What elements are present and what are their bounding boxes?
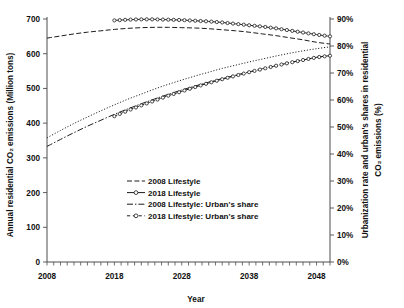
left-tick-label: 500 [26, 84, 40, 93]
left-tick-label: 600 [26, 50, 40, 59]
series-marker [242, 72, 245, 75]
series-marker [204, 82, 207, 85]
series-marker [275, 27, 278, 30]
x-tick-label: 2038 [240, 272, 259, 281]
series-marker [328, 35, 331, 38]
right-tick-label: 80% [337, 42, 354, 51]
series-marker [118, 19, 121, 22]
series-marker [221, 78, 224, 81]
series-marker [210, 20, 213, 23]
series-marker [151, 18, 154, 21]
series-marker [134, 106, 137, 109]
series-marker [231, 22, 234, 25]
y-axis-title: Annual residential CO₂ emissions (Millio… [6, 52, 15, 237]
legend-marker [134, 214, 138, 218]
series-marker [140, 104, 143, 107]
series-marker [258, 68, 261, 71]
series-marker [323, 55, 326, 58]
series-marker [307, 57, 310, 60]
x-tick-label: 2008 [38, 272, 57, 281]
right-tick-label: 60% [337, 96, 354, 105]
series-marker [221, 21, 224, 24]
series-marker [318, 55, 321, 58]
right-tick-label: 90% [337, 15, 354, 24]
x-tick-label: 2048 [307, 272, 326, 281]
series-marker [124, 18, 127, 21]
legend-label: 2008 Lifestyle [148, 177, 201, 186]
right-tick-label: 30% [337, 177, 354, 186]
series-marker [248, 24, 251, 27]
series-marker [248, 71, 251, 74]
series-marker [145, 18, 148, 21]
right-tick-label: 0% [337, 258, 350, 267]
legend-label: 2008 Lifestyle: Urban's share [148, 200, 259, 209]
series-marker [199, 84, 202, 87]
series-marker [226, 21, 229, 24]
series-marker [285, 28, 288, 31]
series-marker [183, 19, 186, 22]
series-marker [161, 18, 164, 21]
series-marker [237, 73, 240, 76]
series-marker [172, 92, 175, 95]
series-marker [296, 30, 299, 33]
left-tick-label: 200 [26, 189, 40, 198]
series-marker [188, 19, 191, 22]
series-marker [291, 61, 294, 64]
chart-container: 0100200300400500600700 0%10%20%30%40%50%… [0, 0, 404, 308]
series-marker [269, 65, 272, 68]
series-marker [307, 32, 310, 35]
right-tick-label: 70% [337, 69, 354, 78]
legend-marker [134, 191, 138, 195]
series-marker [113, 19, 116, 22]
series-marker [258, 25, 261, 28]
series-marker [312, 33, 315, 36]
x-tick-label: 2028 [173, 272, 192, 281]
series-marker [242, 23, 245, 26]
series-marker [161, 96, 164, 99]
series-marker [177, 91, 180, 94]
series-marker [264, 25, 267, 28]
legend-label: 2018 Lifestyle: Urban's share [148, 212, 259, 221]
series-marker [156, 98, 159, 101]
series-marker [188, 87, 191, 90]
y2-axis-title-line1: Urbanization rate and urban's shares in … [361, 42, 370, 239]
co2-emissions-line-chart: 0100200300400500600700 0%10%20%30%40%50%… [0, 0, 404, 308]
right-tick-label: 50% [337, 123, 354, 132]
series-marker [215, 79, 218, 82]
series-marker [291, 29, 294, 32]
series-marker [183, 89, 186, 92]
left-tick-label: 0 [35, 258, 40, 267]
series-marker [113, 115, 116, 118]
series-marker [275, 64, 278, 67]
series-marker [280, 28, 283, 31]
series-marker [167, 18, 170, 21]
series-marker [129, 18, 132, 21]
series-marker [134, 18, 137, 21]
series-marker [253, 24, 256, 27]
series-marker [167, 94, 170, 97]
series-marker [156, 18, 159, 21]
series-marker [124, 110, 127, 113]
series-marker [151, 100, 154, 103]
series-marker [199, 19, 202, 22]
series-marker [177, 18, 180, 21]
series-marker [280, 63, 283, 66]
series-marker [145, 102, 148, 105]
series-marker [296, 60, 299, 63]
series-marker [328, 54, 331, 57]
series-marker [285, 62, 288, 65]
x-tick-label: 2018 [105, 272, 124, 281]
series-marker [323, 34, 326, 37]
left-tick-label: 700 [26, 15, 40, 24]
series-marker [253, 69, 256, 72]
series-marker [264, 67, 267, 70]
series-marker [172, 18, 175, 21]
legend-label: 2018 Lifestyle [148, 189, 201, 198]
series-marker [118, 112, 121, 115]
series-marker [318, 33, 321, 36]
series-marker [204, 20, 207, 23]
series-marker [301, 58, 304, 61]
series-marker [129, 108, 132, 111]
series-marker [237, 23, 240, 26]
series-marker [269, 26, 272, 29]
